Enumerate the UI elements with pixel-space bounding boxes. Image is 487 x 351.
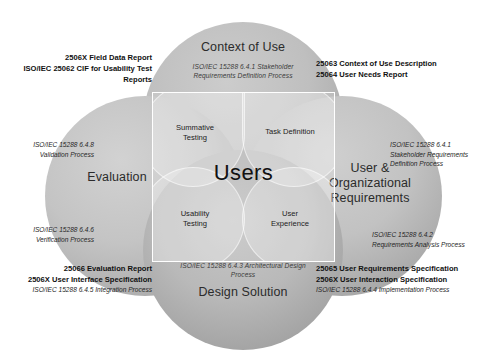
annotation-line: ISO/IEC 15288 6.4.8 [2,140,94,150]
lobe-title-context-of-use: Context of Use [158,40,328,55]
quadrant-label-summative-testing: SummativeTesting [158,123,232,143]
annotation-top-left: 2506X Field Data ReportISO/IEC 25062 CIF… [8,52,152,85]
annotation-left-lower: ISO/IEC 15288 6.4.6Verification Process [2,225,94,244]
lobe-process-design-solution: ISO/IEC 15288 6.4.3 Architectural Design… [157,262,329,280]
annotation-line: ISO/IEC 15288 6.4.2 [372,230,487,240]
annotation-line: 2506X Field Data Report [8,52,152,63]
center-label-users: Users [152,160,335,186]
annotation-right-upper: ISO/IEC 15288 6.4.1Stakeholder Requireme… [390,140,486,169]
annotation-line: ISO/IEC 15288 6.4.6 [2,225,94,235]
annotation-line: Requirements Analysis Process [372,240,487,250]
annotation-line: ISO/IEC 15288 6.4.5 Integration Process [4,285,152,295]
annotation-bottom-left: 25066 Evaluation Report2506X User Interf… [4,263,152,295]
annotation-left-upper: ISO/IEC 15288 6.4.8Validation Process [2,140,94,159]
annotation-line: Stakeholder Requirements [390,150,486,160]
annotation-line: Validation Process [2,150,94,160]
venn-diagram-canvas: Context of Use ISO/IEC 15288 6.4.1 Stake… [0,0,487,351]
annotation-line: Verification Process [2,235,94,245]
lobe-process-context-of-use: ISO/IEC 15288 6.4.1 StakeholderRequireme… [160,63,326,81]
annotation-line: 25063 Context of Use Description [316,58,486,69]
annotation-right-lower: ISO/IEC 15288 6.4.2Requirements Analysis… [372,230,487,249]
annotation-line: 25066 Evaluation Report [4,263,152,274]
annotation-line: Definition Process [390,159,486,169]
lobe-title-design-solution: Design Solution [158,285,328,300]
annotation-top-right: 25063 Context of Use Description25064 Us… [316,58,486,80]
annotation-line: Reports [8,74,152,85]
quadrant-label-usability-testing: UsabilityTesting [158,209,232,229]
annotation-line: ISO/IEC 25062 CIF for Usability Test [8,63,152,74]
annotation-line: 25065 User Requirements Specification [316,263,486,274]
annotation-bottom-right: 25065 User Requirements Specification250… [316,263,486,295]
quadrant-label-user-experience: UserExperience [250,209,330,229]
annotation-line: ISO/IEC 15288 6.4.4 Implementation Proce… [316,285,486,295]
annotation-line: 2506X User Interaction Specification [316,274,486,285]
annotation-line: 2506X User Interface Specification [4,274,152,285]
annotation-line: ISO/IEC 15288 6.4.1 [390,140,486,150]
annotation-line: 25064 User Needs Report [316,69,486,80]
quadrant-label-task-definition: Task Definition [250,127,330,137]
